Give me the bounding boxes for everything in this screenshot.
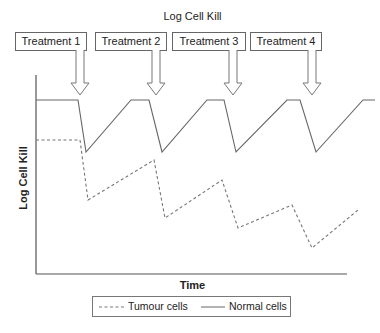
dashed-line-swatch <box>99 297 129 316</box>
treatment-arrows <box>71 50 321 95</box>
y-axis-label: Log Cell Kill <box>17 133 29 223</box>
down-arrow-icon <box>147 50 165 95</box>
down-arrow-icon <box>71 50 89 95</box>
legend: Tumour cells Normal cells <box>92 296 291 317</box>
tumour-cells-line <box>36 140 358 248</box>
down-arrow-icon <box>224 50 242 95</box>
normal-cells-line <box>36 100 375 152</box>
axes <box>36 75 347 274</box>
x-axis-label: Time <box>0 279 380 291</box>
legend-normal-label: Normal cells <box>229 297 287 316</box>
solid-line-swatch <box>201 297 231 316</box>
legend-tumour-label: Tumour cells <box>128 297 188 316</box>
down-arrow-icon <box>303 50 321 95</box>
